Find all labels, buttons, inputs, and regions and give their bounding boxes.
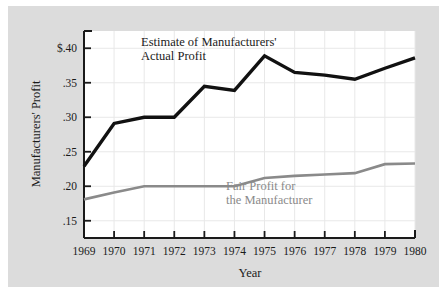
y-tick-label: .30 <box>63 111 78 123</box>
x-tick-label: 1978 <box>343 245 366 257</box>
x-tick-label: 1977 <box>313 245 336 257</box>
black-series-annotation-line2: Actual Profit <box>141 49 206 63</box>
x-tick-label: 1975 <box>253 245 276 257</box>
y-tick-label: $.40 <box>57 42 77 54</box>
line-chart: $.40.35.30.25.20.15 19691970197119721973… <box>0 0 447 293</box>
y-tick-label: .15 <box>63 215 78 227</box>
x-tick-label: 1970 <box>103 245 126 257</box>
x-tick-label: 1972 <box>163 245 186 257</box>
y-tick-label: .35 <box>63 77 78 89</box>
x-tick-label: 1976 <box>283 245 306 257</box>
x-tick-label: 1971 <box>133 245 156 257</box>
x-tick-label: 1974 <box>223 245 246 257</box>
x-tick-label: 1979 <box>373 245 396 257</box>
gray-series-annotation-line1: Fair Profit for <box>226 179 296 193</box>
chart-figure: $.40.35.30.25.20.15 19691970197119721973… <box>0 0 447 293</box>
x-tick-label: 1969 <box>73 245 96 257</box>
x-axis-tick-labels: 1969197019711972197319741975197619771978… <box>73 245 427 257</box>
black-series-annotation-line1: Estimate of Manufacturers' <box>141 35 277 49</box>
x-axis-title: Year <box>238 266 262 280</box>
y-tick-label: .20 <box>63 180 78 192</box>
y-axis-tick-labels: $.40.35.30.25.20.15 <box>57 42 77 227</box>
x-tick-label: 1980 <box>404 245 427 257</box>
y-tick-label: .25 <box>63 146 78 158</box>
y-axis-title: Manufacturers' Profit <box>29 80 43 187</box>
gray-series-annotation-line2: the Manufacturer <box>226 193 313 207</box>
x-tick-label: 1973 <box>193 245 216 257</box>
